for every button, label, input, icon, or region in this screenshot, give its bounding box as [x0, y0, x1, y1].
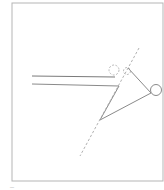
dashed-circle-small [124, 68, 131, 75]
dashed-circle-joint [109, 65, 119, 75]
diagram-canvas [0, 0, 164, 190]
parallel-line-bottom [32, 84, 119, 86]
arrow-shape [100, 68, 151, 120]
figure-frame [12, 3, 163, 181]
caption-mark: — [10, 184, 14, 189]
parallel-line-top [32, 76, 115, 77]
tip-circle [151, 85, 162, 96]
